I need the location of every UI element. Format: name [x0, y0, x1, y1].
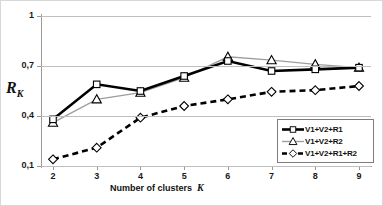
legend-label: V1+V2+R2 — [305, 137, 343, 146]
x-tick-label: 4 — [130, 171, 150, 181]
square-marker — [312, 66, 319, 73]
diamond-marker — [223, 95, 232, 104]
x-tick-label: 8 — [305, 171, 325, 181]
y-tick-label: 1 — [29, 10, 34, 20]
x-axis-title-variable: K — [192, 182, 204, 193]
x-tick-label: 7 — [262, 171, 282, 181]
gridline — [41, 166, 371, 167]
square-marker — [137, 88, 144, 95]
legend-label: V1+V2+R1+R2 — [305, 149, 357, 158]
legend-item[interactable]: V1+V2+R1 — [281, 123, 370, 135]
chart-legend: V1+V2+R1V1+V2+R2V1+V2+R1+R2 — [277, 119, 374, 163]
legend-marker-diamond — [281, 148, 305, 159]
y-tick-label: 0,1 — [21, 160, 34, 170]
diamond-marker — [180, 102, 189, 111]
square-marker — [50, 116, 57, 123]
diamond-marker — [311, 86, 320, 95]
y-axis-title-main: R — [6, 79, 17, 96]
square-marker — [225, 58, 232, 65]
y-tick-label: 0,4 — [21, 110, 34, 120]
x-axis-title-text: Number of clusters — [110, 183, 192, 193]
diamond-marker — [49, 155, 58, 164]
diamond-marker — [355, 82, 364, 91]
y-axis-title: RK — [6, 79, 23, 99]
legend-label: V1+V2+R1 — [305, 125, 343, 134]
diamond-marker — [92, 143, 101, 152]
chart-screenshot: RK 0,10,40,71 23456789 Number of cluster… — [0, 0, 383, 206]
legend-marker-triangle — [281, 136, 305, 147]
gridline — [41, 66, 371, 67]
square-marker — [181, 73, 188, 80]
square-marker — [268, 68, 275, 75]
diamond-marker — [267, 87, 276, 96]
square-marker — [93, 81, 100, 88]
square-marker — [290, 126, 296, 132]
gridline — [41, 116, 371, 117]
diamond-marker — [289, 149, 296, 156]
x-tick-label: 5 — [174, 171, 194, 181]
gridline — [41, 16, 371, 17]
x-tick-label: 2 — [43, 171, 63, 181]
x-tick-label: 6 — [218, 171, 238, 181]
legend-item[interactable]: V1+V2+R1+R2 — [281, 147, 370, 159]
y-axis-title-subscript: K — [17, 88, 24, 99]
x-tick-label: 3 — [87, 171, 107, 181]
legend-item[interactable]: V1+V2+R2 — [281, 135, 370, 147]
x-axis-title: Number of clustersK — [110, 182, 204, 193]
y-tick-label: 0,7 — [21, 60, 34, 70]
legend-marker-square — [281, 124, 305, 135]
x-tick-label: 9 — [349, 171, 369, 181]
